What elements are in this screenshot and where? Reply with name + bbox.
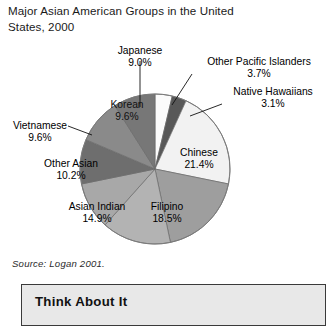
slice-label-chinese-name: Chinese bbox=[180, 147, 218, 158]
slice-label-other-asian: Other Asian 10.2% bbox=[29, 158, 113, 182]
think-about-it-heading: Think About It bbox=[35, 294, 127, 309]
slice-label-native-hawaiians-name: Native Hawaiians bbox=[233, 86, 313, 97]
slice-label-asian-indian-name: Asian Indian bbox=[69, 201, 126, 212]
slice-label-other-pacific-islanders: Other Pacific Islanders 3.7% bbox=[186, 56, 332, 80]
slice-label-other-pacific-islanders-name: Other Pacific Islanders bbox=[207, 56, 311, 67]
page-title: Major Asian American Groups in the Unite… bbox=[8, 3, 308, 34]
source-caption: Source: Logan 2001. bbox=[12, 258, 105, 269]
slice-label-filipino-name: Filipino bbox=[151, 201, 184, 212]
slice-label-japanese-name: Japanese bbox=[118, 45, 163, 56]
slice-label-korean-pct: 9.6% bbox=[96, 111, 158, 123]
slice-label-vietnamese-name: Vietnamese bbox=[13, 120, 67, 131]
slice-label-native-hawaiians-pct: 3.1% bbox=[215, 98, 331, 110]
slice-label-native-hawaiians: Native Hawaiians 3.1% bbox=[215, 86, 331, 110]
slice-label-japanese: Japanese 9.0% bbox=[103, 45, 177, 69]
slice-label-korean-name: Korean bbox=[110, 99, 143, 110]
slice-label-vietnamese-pct: 9.6% bbox=[2, 132, 78, 144]
slice-label-asian-indian-pct: 14.9% bbox=[55, 213, 139, 225]
slice-label-asian-indian: Asian Indian 14.9% bbox=[55, 201, 139, 225]
pie-chart-figure: Japanese 9.0% Other Pacific Islanders 3.… bbox=[0, 34, 335, 252]
slice-label-filipino: Filipino 18.5% bbox=[134, 201, 200, 225]
slice-label-other-asian-pct: 10.2% bbox=[29, 170, 113, 182]
slice-label-korean: Korean 9.6% bbox=[96, 99, 158, 123]
slice-label-chinese: Chinese 21.4% bbox=[168, 147, 230, 171]
slice-label-other-pacific-islanders-pct: 3.7% bbox=[186, 68, 332, 80]
think-about-it-box: Think About It bbox=[21, 284, 326, 326]
slice-label-vietnamese: Vietnamese 9.6% bbox=[2, 120, 78, 144]
slice-label-japanese-pct: 9.0% bbox=[103, 57, 177, 69]
slice-label-chinese-pct: 21.4% bbox=[168, 159, 230, 171]
slice-label-other-asian-name: Other Asian bbox=[44, 158, 98, 169]
slice-label-filipino-pct: 18.5% bbox=[134, 213, 200, 225]
